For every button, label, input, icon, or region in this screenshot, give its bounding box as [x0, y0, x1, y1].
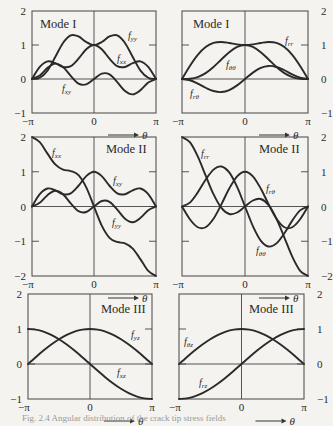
- series-label: frθ: [266, 183, 276, 196]
- y-tick-label: 0: [321, 73, 327, 85]
- series-label: fyz: [131, 329, 140, 342]
- y-tick-label: 1: [21, 166, 27, 178]
- y-tick-label: 2: [317, 288, 323, 300]
- y-tick-label: 2: [21, 131, 27, 143]
- x-axis-label: θ: [293, 129, 299, 141]
- y-tick-label: 1: [321, 166, 327, 178]
- y-tick-label: 2: [21, 5, 27, 17]
- x-tick-label: π: [305, 115, 311, 127]
- y-tick-label: −1: [317, 393, 329, 405]
- x-tick-label: π: [149, 401, 155, 413]
- mode3-polar-panel: 210−1−π0πθMode IIIfθzfrz: [169, 288, 329, 426]
- x-tick-label: −π: [22, 115, 34, 127]
- series-label: fθz: [184, 336, 193, 349]
- y-tick-label: 1: [21, 39, 27, 51]
- panel-title: Mode II: [259, 142, 300, 156]
- series-label: fθθ: [256, 245, 266, 258]
- mode1-cartesian-panel: 210−1−π0πθMode Ifyyfxxfxy: [14, 5, 159, 141]
- series-label: fyy: [128, 30, 138, 43]
- x-tick-label: −π: [172, 115, 184, 127]
- stress-distribution-figure: 210−1−π0πθMode Ifyyfxxfxy210−1−π0πθMode …: [0, 0, 333, 426]
- series-label: fθθ: [226, 59, 236, 72]
- x-tick-label: 0: [242, 278, 248, 290]
- series-label: fyy: [112, 217, 122, 230]
- x-tick-label: 0: [239, 401, 245, 413]
- x-tick-label: −π: [172, 278, 184, 290]
- mode3-cartesian-panel: 210−1−π0πθMode IIIfyzfxz: [10, 288, 155, 426]
- y-tick-label: −1: [14, 235, 26, 247]
- series-label: frr: [285, 35, 294, 48]
- panel-title: Mode III: [101, 302, 146, 316]
- x-axis-label: θ: [142, 129, 148, 141]
- x-tick-label: 0: [242, 115, 248, 127]
- panel-title: Mode II: [106, 142, 147, 156]
- y-tick-label: 2: [17, 288, 23, 300]
- y-tick-label: 2: [321, 131, 327, 143]
- mode2-cartesian-panel: 210−1−2−π0πθMode IIfxxfxyfyy: [14, 131, 159, 304]
- y-tick-label: 0: [317, 358, 323, 370]
- x-tick-label: −π: [22, 278, 34, 290]
- y-tick-label: 0: [21, 201, 27, 213]
- panel-title: Mode III: [249, 302, 294, 316]
- series-label: frθ: [190, 88, 200, 101]
- x-tick-label: −π: [169, 401, 181, 413]
- series-label: fxx: [52, 147, 62, 160]
- x-tick-label: π: [305, 278, 311, 290]
- x-axis-label: θ: [290, 415, 296, 426]
- mode1-polar-panel: 210−1−π0πθMode Ifrrfθθfrθ: [172, 5, 333, 141]
- x-tick-label: 0: [91, 278, 97, 290]
- x-tick-label: π: [153, 115, 159, 127]
- y-tick-label: 0: [17, 358, 23, 370]
- y-tick-label: 0: [21, 73, 27, 85]
- series-label: frr: [201, 148, 210, 161]
- mode2-polar-panel: 210−1−2−π0πθMode IIfrrfrθfθθ: [172, 131, 333, 304]
- y-tick-label: 2: [321, 5, 327, 17]
- y-tick-label: 1: [321, 39, 327, 51]
- panel-title: Mode I: [40, 17, 76, 31]
- y-tick-label: −1: [321, 107, 333, 119]
- y-tick-label: 1: [317, 323, 323, 335]
- y-tick-label: −2: [321, 270, 333, 282]
- y-tick-label: 1: [17, 323, 23, 335]
- series-label: fxx: [117, 53, 127, 66]
- y-tick-label: 0: [321, 201, 327, 213]
- y-tick-label: −1: [321, 235, 333, 247]
- x-tick-label: 0: [87, 401, 93, 413]
- x-tick-label: π: [153, 278, 159, 290]
- series-label: fxz: [117, 367, 126, 380]
- x-tick-label: −π: [18, 401, 30, 413]
- panel-title: Mode I: [193, 17, 229, 31]
- series-label: fxy: [113, 175, 123, 188]
- x-tick-label: 0: [91, 115, 97, 127]
- series-label: fxy: [62, 83, 72, 96]
- x-tick-label: π: [301, 401, 307, 413]
- series-label: frz: [199, 377, 208, 390]
- figure-caption: Fig. 2.4 Angular distribution of the cra…: [22, 413, 226, 423]
